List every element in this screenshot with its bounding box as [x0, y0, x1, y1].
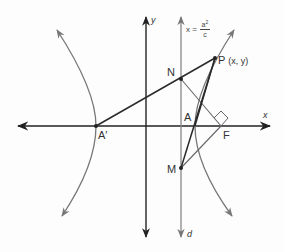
y-axis-label: y	[151, 16, 156, 25]
point-N	[179, 77, 183, 81]
label-P-coords: (x, y)	[228, 56, 248, 66]
x-axis-label: x	[263, 111, 268, 120]
label-A: A	[184, 112, 191, 123]
point-M	[179, 166, 183, 170]
point-A-prime	[94, 124, 98, 128]
hyperbola-left-branch	[57, 30, 96, 216]
label-F: F	[223, 130, 230, 141]
diagram-svg	[0, 0, 284, 252]
directrix-eq-sup: 2	[205, 19, 208, 25]
right-angle-marker	[214, 111, 228, 126]
directrix-eq-lhs: x =	[186, 25, 197, 34]
hyperbola-diagram: y x d x = a2 c P (x, y) N A A′ F M	[0, 0, 284, 252]
label-N: N	[167, 67, 175, 78]
directrix-eq-den: c	[203, 31, 207, 38]
label-A-prime: A′	[98, 130, 107, 141]
directrix-equation: x = a2 c	[186, 20, 210, 38]
directrix-label: d	[187, 230, 192, 239]
label-M: M	[167, 164, 176, 175]
point-P	[213, 56, 217, 60]
label-P: P (x, y)	[218, 55, 248, 66]
label-P-letter: P	[218, 54, 225, 66]
